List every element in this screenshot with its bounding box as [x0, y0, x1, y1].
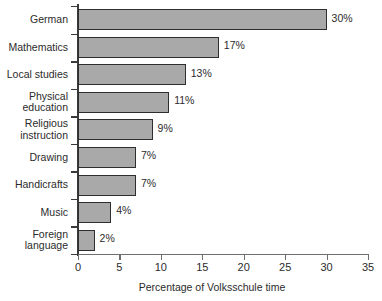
bar: [78, 230, 95, 251]
bar-row: 2%: [78, 226, 368, 254]
x-axis-tick-label: 10: [146, 261, 176, 273]
bar-value-label: 30%: [332, 12, 353, 25]
x-axis-tick-label: 5: [104, 261, 134, 273]
x-axis-tick: [202, 254, 203, 260]
x-axis-tick-label: 15: [187, 261, 217, 273]
x-axis-tick: [119, 254, 120, 260]
y-axis-tick: [71, 61, 78, 62]
bar-value-label: 2%: [100, 232, 115, 245]
x-axis-title: Percentage of Volksschule time: [0, 281, 382, 293]
y-axis-label-line: education: [0, 102, 68, 114]
bar-row: 7%: [78, 171, 368, 199]
y-axis-tick: [71, 254, 78, 255]
y-axis-label: Foreignlanguage: [0, 229, 68, 252]
y-axis-label-line: instruction: [0, 130, 68, 142]
bar-value-label: 7%: [141, 149, 156, 162]
x-axis-tick: [368, 254, 369, 260]
bar-chart: GermanMathematicsLocal studiesPhysicaled…: [0, 0, 382, 301]
x-axis-tick-label: 20: [229, 261, 259, 273]
x-axis-tick: [161, 254, 162, 260]
y-axis-label-line: Music: [0, 207, 68, 219]
bar-row: 30%: [78, 6, 368, 34]
bar-row: 9%: [78, 116, 368, 144]
y-axis-tick: [71, 89, 78, 90]
y-axis-label-line: Mathematics: [0, 42, 68, 54]
x-axis-tick: [244, 254, 245, 260]
bar: [78, 147, 136, 168]
y-axis-tick: [71, 34, 78, 35]
bar-value-label: 4%: [116, 204, 131, 217]
y-axis-label: Religiousinstruction: [0, 118, 68, 141]
bar-value-label: 9%: [158, 122, 173, 135]
bar: [78, 9, 327, 30]
y-axis-label-line: Handicrafts: [0, 179, 68, 191]
y-axis-label-line: language: [0, 240, 68, 252]
bar-row: 4%: [78, 199, 368, 227]
bars-container: 30%17%13%11%9%7%7%4%2%: [78, 6, 368, 254]
y-axis-label-line: Drawing: [0, 152, 68, 164]
bar-value-label: 7%: [141, 177, 156, 190]
bar-row: 13%: [78, 61, 368, 89]
bar-value-label: 17%: [224, 39, 245, 52]
bar-value-label: 11%: [174, 94, 194, 107]
y-axis-label: German: [0, 14, 68, 26]
bar-row: 11%: [78, 89, 368, 117]
y-axis-tick: [71, 144, 78, 145]
y-axis-label: Mathematics: [0, 42, 68, 54]
x-axis-tick: [78, 254, 79, 260]
y-axis-label: Handicrafts: [0, 179, 68, 191]
y-axis-label: Physicaleducation: [0, 91, 68, 114]
bar-value-label: 13%: [191, 67, 212, 80]
x-axis-tick-label: 30: [312, 261, 342, 273]
y-axis-tick: [71, 116, 78, 117]
y-axis-label-line: Local studies: [0, 69, 68, 81]
bar: [78, 202, 111, 223]
bar: [78, 64, 186, 85]
y-axis-tick: [71, 6, 78, 7]
x-axis-tick-label: 25: [270, 261, 300, 273]
bar-row: 7%: [78, 144, 368, 172]
x-axis-line: [77, 254, 369, 255]
y-axis-label: Music: [0, 207, 68, 219]
bar: [78, 37, 219, 58]
y-axis-category-labels: GermanMathematicsLocal studiesPhysicaled…: [0, 6, 68, 254]
x-axis-tick: [327, 254, 328, 260]
y-axis-label: Drawing: [0, 152, 68, 164]
bar: [78, 119, 153, 140]
y-axis-tick: [71, 199, 78, 200]
x-axis-tick-label: 35: [353, 261, 382, 273]
y-axis-label: Local studies: [0, 69, 68, 81]
x-axis-tick-label: 0: [63, 261, 93, 273]
y-axis-tick: [71, 171, 78, 172]
bar-row: 17%: [78, 34, 368, 62]
x-axis-title-text: Percentage of Volksschule time: [139, 281, 286, 293]
y-axis-tick: [71, 226, 78, 227]
x-axis-tick: [285, 254, 286, 260]
bar: [78, 92, 169, 113]
y-axis-label-line: German: [0, 14, 68, 26]
bar: [78, 175, 136, 196]
